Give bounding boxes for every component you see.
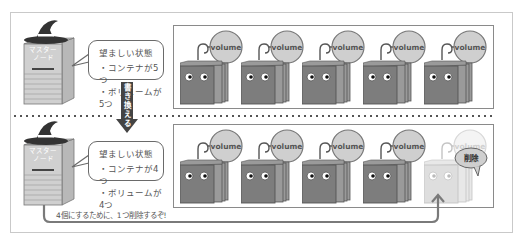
delete-flow-arrow xyxy=(0,0,526,244)
delete-caption: 4個にするために、1つ削除するぞ! xyxy=(56,209,167,220)
